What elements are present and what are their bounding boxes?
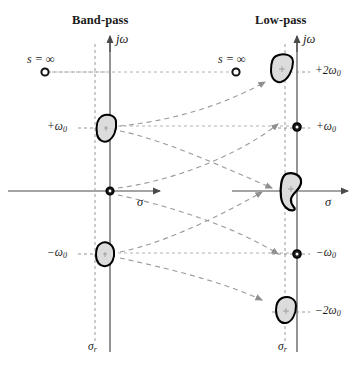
bandpass-s-infinity-marker xyxy=(41,68,48,75)
lowpass-title: Low-pass xyxy=(255,14,307,27)
lowpass-jomega-label: jω xyxy=(303,33,315,46)
lowpass-s-infinity-marker xyxy=(232,68,239,75)
lowpass-minus-omega0-label: −ω0 xyxy=(316,247,336,260)
lowpass-plus-omega0-label: +ω0 xyxy=(316,121,336,134)
bandpass-sigma-label: σ xyxy=(137,196,143,209)
figure-canvas: Band-pass Low-pass jω jω σ σ s = ∞ s = ∞… xyxy=(0,0,355,371)
lowpass-plus-2omega0-label: +2ω0 xyxy=(315,65,341,78)
bandpass-jomega-label: jω xyxy=(116,33,128,46)
lowpass-minus-2omega0-label: −2ω0 xyxy=(315,305,341,318)
bandpass-sigma-r-label: σr xyxy=(88,341,97,354)
lowpass-sigma-label: σ xyxy=(325,196,331,209)
bandpass-minus-omega0-label: −ω0 xyxy=(47,247,67,260)
bandpass-s-infinity-label: s = ∞ xyxy=(27,53,54,65)
map-arrow-plusomega-to-origin xyxy=(120,131,272,188)
bandpass-plus-omega0-label: +ω0 xyxy=(47,121,67,134)
bandpass-title: Band-pass xyxy=(72,14,129,27)
map-arrow-plusomega-to-plus2omega xyxy=(120,82,265,126)
figure-caption-fragment xyxy=(0,361,355,371)
map-arrow-minusomega-to-minus2omega xyxy=(120,258,262,300)
lowpass-sigma-r-label: σr xyxy=(278,341,287,354)
lowpass-s-infinity-label: s = ∞ xyxy=(218,53,245,65)
